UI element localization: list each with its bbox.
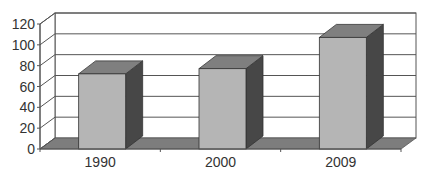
bar-front xyxy=(79,74,126,149)
y-tick-label: 40 xyxy=(19,99,35,115)
y-axis: 020406080100120 xyxy=(12,16,40,157)
bar-front xyxy=(319,37,366,149)
x-category-label: 2000 xyxy=(205,154,236,170)
y-tick-label: 80 xyxy=(19,58,35,74)
y-tick-label: 20 xyxy=(19,120,35,136)
y-tick-label: 120 xyxy=(12,16,36,32)
bar-side xyxy=(246,56,263,149)
x-category-label: 2009 xyxy=(325,154,356,170)
y-tick-label: 0 xyxy=(27,141,35,157)
y-tick-label: 60 xyxy=(19,79,35,95)
bar-chart-3d: 020406080100120 199020002009 xyxy=(0,0,425,176)
bar-2009 xyxy=(319,24,383,149)
x-category-label: 1990 xyxy=(85,154,116,170)
x-axis: 199020002009 xyxy=(40,149,401,170)
bar-side xyxy=(126,61,143,149)
bar-2000 xyxy=(199,56,263,149)
bar-front xyxy=(199,69,246,149)
bar-side xyxy=(366,24,383,149)
y-tick-label: 100 xyxy=(12,37,36,53)
bar-1990 xyxy=(79,61,143,149)
